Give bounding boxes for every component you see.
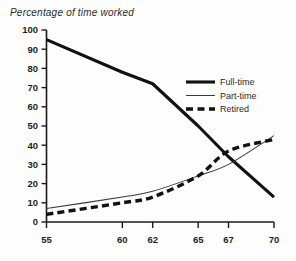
x-axis: 556062656770 [41,222,279,245]
y-tick-label: 100 [22,24,38,35]
legend-label-retired: Retired [220,104,249,114]
y-tick-label: 30 [27,159,38,170]
line-chart-plot: 0102030405060708090100 556062656770 Full… [0,0,296,261]
x-tick-label: 62 [147,234,158,245]
x-tick-label: 60 [117,234,128,245]
legend-label-full-time: Full-time [220,77,255,87]
y-tick-label: 50 [27,120,38,131]
y-tick-label: 60 [27,101,38,112]
series-line-part-time [47,136,275,209]
x-tick-label: 70 [269,234,280,245]
data-series-group [47,40,275,215]
chart-legend: Full-timePart-timeRetired [186,77,257,114]
y-tick-label: 80 [27,63,38,74]
y-tick-label: 10 [27,197,38,208]
x-tick-label: 67 [223,234,234,245]
series-line-full-time [47,40,275,197]
y-tick-label: 20 [27,178,38,189]
x-axis-ticks [47,222,275,228]
y-tick-label: 40 [27,140,38,151]
x-tick-label: 65 [193,234,204,245]
x-tick-label: 55 [41,234,52,245]
y-axis-tick-labels: 0102030405060708090100 [22,24,38,227]
chart-container: Percentage of time worked 01020304050607… [0,0,296,261]
legend-label-part-time: Part-time [220,91,257,101]
y-tick-label: 0 [33,216,38,227]
y-tick-label: 90 [27,44,38,55]
y-axis: 0102030405060708090100 [22,24,46,227]
x-axis-tick-labels: 556062656770 [41,234,279,245]
y-tick-label: 70 [27,82,38,93]
